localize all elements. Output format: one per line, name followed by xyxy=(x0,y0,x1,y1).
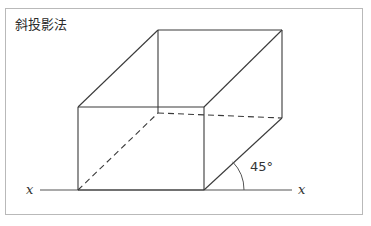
angle-label-45: 45° xyxy=(250,159,273,174)
oblique-projection-diagram xyxy=(0,0,371,226)
x-axis-label-left: x xyxy=(26,182,33,197)
depth-edge-top-left xyxy=(78,30,158,107)
depth-edge-top-right xyxy=(204,30,282,107)
hidden-edge-bottom-back xyxy=(158,113,282,118)
angle-arc xyxy=(233,162,244,190)
x-axis-label-right: x xyxy=(298,182,305,197)
figure-root: 斜投影法 x x 45° xyxy=(0,0,371,226)
hidden-edge-depth-bottom-left xyxy=(78,113,158,190)
